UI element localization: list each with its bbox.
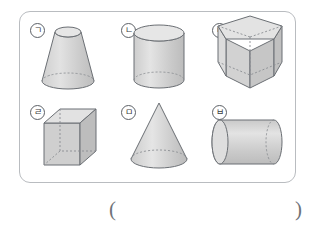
shape-item-pentagonal-prism[interactable]: ㄷ bbox=[204, 15, 296, 101]
worksheet-figure: ㄱ ㄴ bbox=[0, 0, 315, 240]
shape-item-truncated-cone[interactable]: ㄱ bbox=[22, 15, 114, 101]
rectangular-prism-icon bbox=[22, 97, 114, 183]
cylinder-upright-icon bbox=[113, 15, 205, 101]
shape-item-cylinder-horizontal[interactable]: ㅂ bbox=[204, 97, 296, 183]
shape-item-cone[interactable]: ㅁ bbox=[113, 97, 205, 183]
answer-paren-open: ( bbox=[109, 196, 116, 222]
cone-icon bbox=[113, 97, 205, 183]
shape-frame: ㄱ ㄴ bbox=[19, 11, 296, 183]
cylinder-horizontal-icon bbox=[204, 97, 296, 183]
answer-paren-close: ) bbox=[295, 196, 302, 222]
shape-item-rectangular-prism[interactable]: ㄹ bbox=[22, 97, 114, 183]
shape-item-cylinder-upright[interactable]: ㄴ bbox=[113, 15, 205, 101]
pentagonal-prism-icon bbox=[204, 15, 296, 101]
truncated-cone-icon bbox=[22, 15, 114, 101]
answer-row[interactable]: ( ) bbox=[19, 196, 296, 230]
